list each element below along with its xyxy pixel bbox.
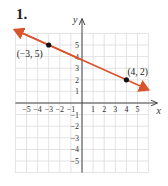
svg-text:2: 2 <box>102 105 106 114</box>
svg-text:−4: −4 <box>70 145 79 154</box>
data-point <box>46 42 51 47</box>
point-label: (−3, 5) <box>17 49 43 60</box>
data-point <box>124 77 129 82</box>
svg-text:4: 4 <box>124 105 128 114</box>
svg-text:5: 5 <box>75 41 79 50</box>
svg-text:−4: −4 <box>33 105 42 114</box>
svg-text:1: 1 <box>91 105 95 114</box>
svg-text:−5: −5 <box>22 105 31 114</box>
svg-text:−3: −3 <box>44 105 53 114</box>
svg-text:5: 5 <box>136 105 140 114</box>
svg-text:−2: −2 <box>56 105 65 114</box>
y-axis-label: y <box>72 14 78 25</box>
svg-text:2: 2 <box>75 76 79 85</box>
coordinate-plane: xy −5−4−3−2−11234554321−1−2−3−4−5 (−3, 5… <box>0 0 168 186</box>
svg-text:1: 1 <box>75 87 79 96</box>
point-label: (4, 2) <box>127 67 148 78</box>
svg-text:−2: −2 <box>70 122 79 131</box>
svg-text:−3: −3 <box>70 134 79 143</box>
svg-text:3: 3 <box>75 64 79 73</box>
svg-text:3: 3 <box>113 105 117 114</box>
plotted-line: (−3, 5)(4, 2) <box>14 30 148 90</box>
x-axis-label: x <box>156 105 162 116</box>
svg-text:−1: −1 <box>70 111 79 120</box>
svg-text:−5: −5 <box>70 157 79 166</box>
